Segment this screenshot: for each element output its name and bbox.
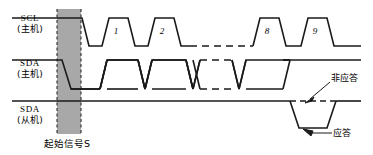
sda-slave-signal-name: SDA <box>8 104 52 115</box>
sda-master-low-rails <box>71 60 239 89</box>
sda-slave-source-name: (从机) <box>8 115 52 126</box>
ack-leader-arrow <box>303 129 313 136</box>
sda-master-eye-lower <box>100 60 290 89</box>
sda-master-dashed-gap <box>200 60 232 89</box>
sda-master-signal-name: SDA <box>8 58 52 69</box>
pulse-number-1: 1 <box>109 26 123 36</box>
nack-leader-arrow <box>305 97 314 103</box>
scl-signal-name: SCL <box>8 13 52 24</box>
row-label-scl-master: SCL (主机) <box>8 13 52 35</box>
nack-annotation-label: 非应答 <box>331 71 358 84</box>
nack-leader-line <box>310 82 330 99</box>
start-condition-band <box>57 9 81 134</box>
sda-master-source-name: (主机) <box>8 69 52 80</box>
row-label-sda-master: SDA (主机) <box>8 58 52 80</box>
pulse-number-8: 8 <box>260 26 274 36</box>
start-condition-caption: 起始信号S <box>44 136 90 150</box>
scl-source-name: (主机) <box>8 24 52 35</box>
waveform-canvas <box>0 0 373 155</box>
ack-annotation-label: 应答 <box>333 126 351 139</box>
row-label-sda-slave: SDA (从机) <box>8 104 52 126</box>
sda-master-gap-crossings <box>193 60 239 89</box>
pulse-number-9: 9 <box>308 26 322 36</box>
i2c-timing-diagram: SCL (主机) SDA (主机) SDA (从机) 1 2 8 9 非应答 应… <box>0 0 373 155</box>
pulse-number-2: 2 <box>155 26 169 36</box>
